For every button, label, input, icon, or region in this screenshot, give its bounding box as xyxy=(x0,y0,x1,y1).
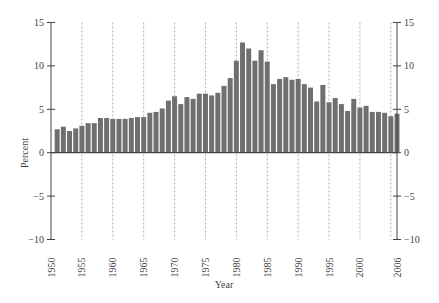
bar xyxy=(382,113,387,153)
x-tick-label: 1975 xyxy=(200,258,211,278)
bar xyxy=(265,62,270,153)
bar xyxy=(252,61,257,153)
bar xyxy=(110,119,115,153)
x-tick-label: 1955 xyxy=(76,258,87,278)
bar xyxy=(388,116,393,152)
bar xyxy=(277,79,282,153)
bar xyxy=(141,117,146,153)
bar xyxy=(172,96,177,152)
bar xyxy=(351,99,356,153)
bar xyxy=(246,49,251,153)
bar xyxy=(160,108,165,152)
bar-series xyxy=(55,42,400,152)
bar xyxy=(73,128,78,152)
bar xyxy=(166,101,171,153)
bar xyxy=(67,131,72,153)
bar xyxy=(228,78,233,153)
bar xyxy=(79,126,84,153)
bar xyxy=(222,86,227,153)
bar xyxy=(271,84,276,153)
bar xyxy=(215,93,220,153)
x-tick-label: 2006 xyxy=(392,258,403,278)
x-tick-label: 1965 xyxy=(138,258,149,278)
y-tick-label-right: 0 xyxy=(404,147,409,158)
bar xyxy=(147,113,152,153)
x-tick-label: 1960 xyxy=(107,258,118,278)
bar xyxy=(86,123,91,153)
bar xyxy=(61,127,66,153)
bar xyxy=(370,112,375,153)
bar xyxy=(55,129,60,152)
bar xyxy=(289,80,294,153)
x-tick-label: 1970 xyxy=(169,258,180,278)
bar xyxy=(209,95,214,152)
y-tick-label-right: 10 xyxy=(404,60,414,71)
bar xyxy=(197,94,202,153)
bar xyxy=(364,106,369,153)
y-tick-label-right: −5 xyxy=(404,191,415,202)
bar xyxy=(123,119,128,153)
x-tick-label: 1950 xyxy=(46,258,57,278)
bar xyxy=(259,50,264,152)
bar xyxy=(240,42,245,152)
bar xyxy=(333,98,338,153)
x-tick-label: 1980 xyxy=(231,258,242,278)
bar xyxy=(320,85,325,153)
bar xyxy=(314,101,319,152)
bar xyxy=(92,123,97,153)
bar xyxy=(357,108,362,153)
bar xyxy=(302,84,307,153)
bar xyxy=(203,94,208,153)
y-tick-label-right: 15 xyxy=(404,17,414,28)
y-tick-label-right: 5 xyxy=(404,104,409,115)
y-tick-label-left: 15 xyxy=(34,17,44,28)
bar xyxy=(104,118,109,153)
bar xyxy=(376,112,381,153)
y-tick-label-left: 0 xyxy=(39,147,44,158)
bar xyxy=(345,111,350,153)
bar xyxy=(296,79,301,153)
bar xyxy=(308,88,313,153)
x-tick-label: 1985 xyxy=(262,258,273,278)
y-tick-label-right: −10 xyxy=(404,234,420,245)
bar xyxy=(327,102,332,152)
x-axis-title: Year xyxy=(215,279,234,290)
bar xyxy=(98,118,103,153)
bar xyxy=(283,77,288,153)
bar xyxy=(135,117,140,153)
x-tick-label: 1990 xyxy=(293,258,304,278)
bar xyxy=(116,119,121,153)
y-axis-title: Percent xyxy=(19,138,30,168)
bar xyxy=(234,61,239,153)
y-tick-label-left: 10 xyxy=(34,60,44,71)
bar xyxy=(339,104,344,153)
y-tick-label-left: 5 xyxy=(39,104,44,115)
bar xyxy=(184,97,189,153)
x-tick-label: 2000 xyxy=(354,258,365,278)
bar xyxy=(154,112,159,153)
bar xyxy=(129,118,134,153)
bar xyxy=(178,104,183,153)
bar-chart: −10−10−5−5005510101515195019551960196519… xyxy=(0,0,439,303)
y-tick-label-left: −5 xyxy=(33,191,44,202)
x-tick-label: 1995 xyxy=(324,258,335,278)
y-tick-label-left: −10 xyxy=(28,234,44,245)
bar xyxy=(191,99,196,153)
